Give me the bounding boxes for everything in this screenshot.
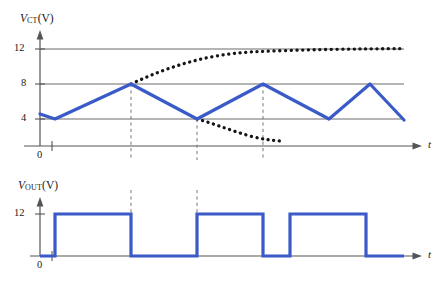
- lower-exponential-envelope: [197, 119, 284, 141]
- vct-y-axis-arrow: [37, 30, 44, 40]
- vct-ytick-label-4: 4: [21, 113, 26, 124]
- vout-axis-label: VOUT(V): [18, 180, 58, 192]
- vct-axis-unit: (V): [38, 12, 54, 24]
- waveform-svg: [0, 0, 447, 285]
- vct-axis-var: V: [20, 12, 27, 24]
- upper-exponential-envelope: [131, 49, 404, 84]
- capacitor-triangle-wave: [40, 84, 404, 120]
- vout-axis-var: V: [18, 179, 25, 191]
- vout-axis-sub: OUT: [25, 183, 42, 192]
- vct-ytick-label-12: 12: [14, 43, 25, 54]
- vout-t-axis-arrow: [413, 252, 423, 259]
- vct-t-axis-label: t: [428, 139, 431, 150]
- vout-axis-unit: (V): [42, 179, 58, 191]
- vout-t-axis-label: t: [428, 249, 431, 260]
- vct-panel: [24, 30, 422, 160]
- waveform-figure: VCT(V) 12 8 4 0 t VOUT(V) 12 0 t: [0, 0, 447, 285]
- vout-origin-label: 0: [37, 260, 42, 271]
- vct-axis-sub: CT: [27, 16, 38, 25]
- vct-axis-label: VCT(V): [20, 13, 54, 25]
- vct-ytick-label-8: 8: [21, 78, 26, 89]
- vout-y-axis-arrow: [37, 197, 44, 207]
- vout-ytick-label-12: 12: [14, 208, 25, 219]
- output-square-wave: [40, 214, 404, 256]
- vct-t-axis-arrow: [413, 142, 423, 149]
- vout-panel: [30, 190, 422, 261]
- vct-origin-label: 0: [37, 150, 42, 161]
